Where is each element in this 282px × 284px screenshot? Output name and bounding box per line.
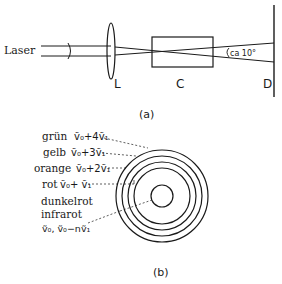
caption-a: (a) [139, 108, 154, 121]
ring-formula-gelb: ṽ₀+3ṽ₁ [71, 147, 106, 158]
caption-b: (b) [153, 266, 169, 279]
ring-pattern [116, 150, 208, 242]
lens-label: L [114, 77, 121, 91]
lens [107, 23, 115, 79]
cell-label: C [176, 77, 184, 91]
screen-label: D [263, 77, 272, 91]
ring-label-gelb: gelb [43, 146, 66, 158]
ring-label-dunkelrot: dunkelrot [41, 195, 94, 207]
ring-formula-infrarot: ṽ₀, ṽ₀−nṽ₁ [42, 223, 91, 234]
ring-rot [134, 168, 190, 224]
ring-label-orange: orange [34, 162, 71, 174]
ring-orange [128, 162, 196, 230]
ring-gruen [116, 150, 208, 242]
raman-diagram: Laser L C D ca 10° (a) grün ṽ₀+4ṽ₁ gelb … [0, 0, 282, 284]
ring-label-rot: rot [42, 178, 58, 190]
ring-formula-gruen: ṽ₀+4ṽ₁ [74, 131, 109, 142]
angle-label: ca 10° [230, 49, 256, 58]
beam-arrow-icon [68, 43, 71, 59]
ring-formula-rot: ṽ₀+ ṽ₁ [60, 179, 91, 190]
angle-arc-icon [227, 48, 229, 57]
ring-label-gruen: grün [42, 130, 68, 142]
laser-label: Laser [4, 44, 36, 57]
ring-label-infrarot: infrarot [41, 208, 83, 220]
ring-center [151, 185, 173, 207]
ring-formula-orange: ṽ₀+2ṽ₁ [76, 163, 111, 174]
